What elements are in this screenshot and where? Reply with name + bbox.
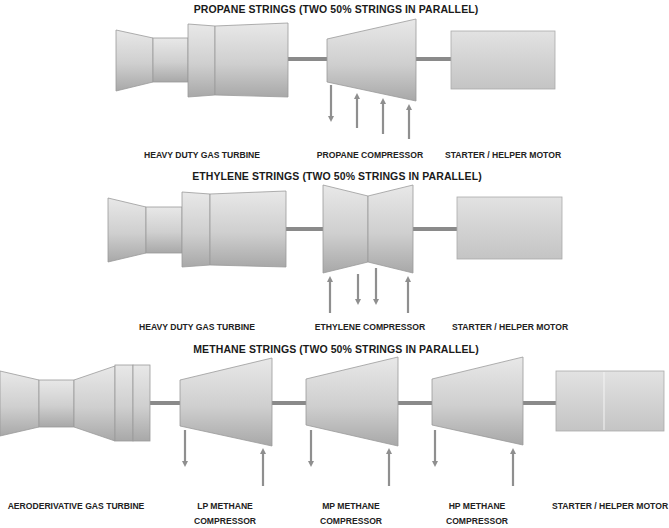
heavy-duty-gas-turbine (116, 23, 288, 97)
shaft (397, 401, 433, 405)
shaft (522, 401, 557, 405)
starter-helper-motor-label: STARTER / HELPER MOTOR (445, 148, 561, 163)
hp-methane-compressor (432, 357, 523, 445)
compressor-strings-diagram (0, 0, 669, 528)
propane-string (116, 19, 555, 139)
starter-helper-motor (457, 197, 562, 259)
hp-methane-compressor-label: HP METHANE COMPRESSOR (446, 499, 508, 528)
label-line: HP METHANE (446, 499, 508, 514)
methane-string (0, 357, 664, 486)
methane-section-title: METHANE STRINGS (TWO 50% STRINGS IN PARA… (193, 343, 478, 355)
ethylene-section-title: ETHYLENE STRINGS (TWO 50% STRINGS IN PAR… (192, 170, 482, 182)
ethylene-string (108, 185, 562, 313)
starter-helper-motor-label: STARTER / HELPER MOTOR (452, 320, 568, 335)
shaft (415, 57, 452, 61)
process-arrows (330, 268, 408, 313)
propane-compressor-label: PROPANE COMPRESSOR (317, 148, 423, 163)
mp-methane-compressor (306, 357, 398, 446)
heavy-duty-gas-turbine-label: HEAVY DUTY GAS TURBINE (139, 320, 255, 335)
ethylene-compressor (323, 185, 413, 273)
aeroderivative-gas-turbine (0, 365, 150, 441)
label-line: COMPRESSOR (320, 514, 382, 528)
shaft (271, 401, 307, 405)
aeroderivative-gas-turbine-label: AERODERIVATIVE GAS TURBINE (8, 499, 145, 514)
mp-methane-compressor-label: MP METHANE COMPRESSOR (320, 499, 382, 528)
shaft (288, 57, 328, 61)
heavy-duty-gas-turbine (108, 191, 286, 267)
shaft (285, 227, 324, 231)
process-arrows (185, 430, 513, 486)
heavy-duty-gas-turbine-label: HEAVY DUTY GAS TURBINE (144, 148, 260, 163)
starter-helper-motor (451, 31, 555, 89)
label-line: COMPRESSOR (446, 514, 508, 528)
lp-methane-compressor (180, 358, 272, 446)
shaft (412, 227, 458, 231)
label-line: MP METHANE (320, 499, 382, 514)
label-line: COMPRESSOR (194, 514, 256, 528)
ethylene-compressor-label: ETHYLENE COMPRESSOR (315, 320, 425, 335)
propane-compressor (327, 19, 416, 101)
starter-helper-motor (556, 371, 664, 431)
lp-methane-compressor-label: LP METHANE COMPRESSOR (194, 499, 256, 528)
propane-section-title: PROPANE STRINGS (TWO 50% STRINGS IN PARA… (194, 3, 479, 15)
starter-helper-motor-label: STARTER / HELPER MOTOR (552, 499, 668, 514)
shaft (150, 401, 181, 405)
label-line: LP METHANE (194, 499, 256, 514)
